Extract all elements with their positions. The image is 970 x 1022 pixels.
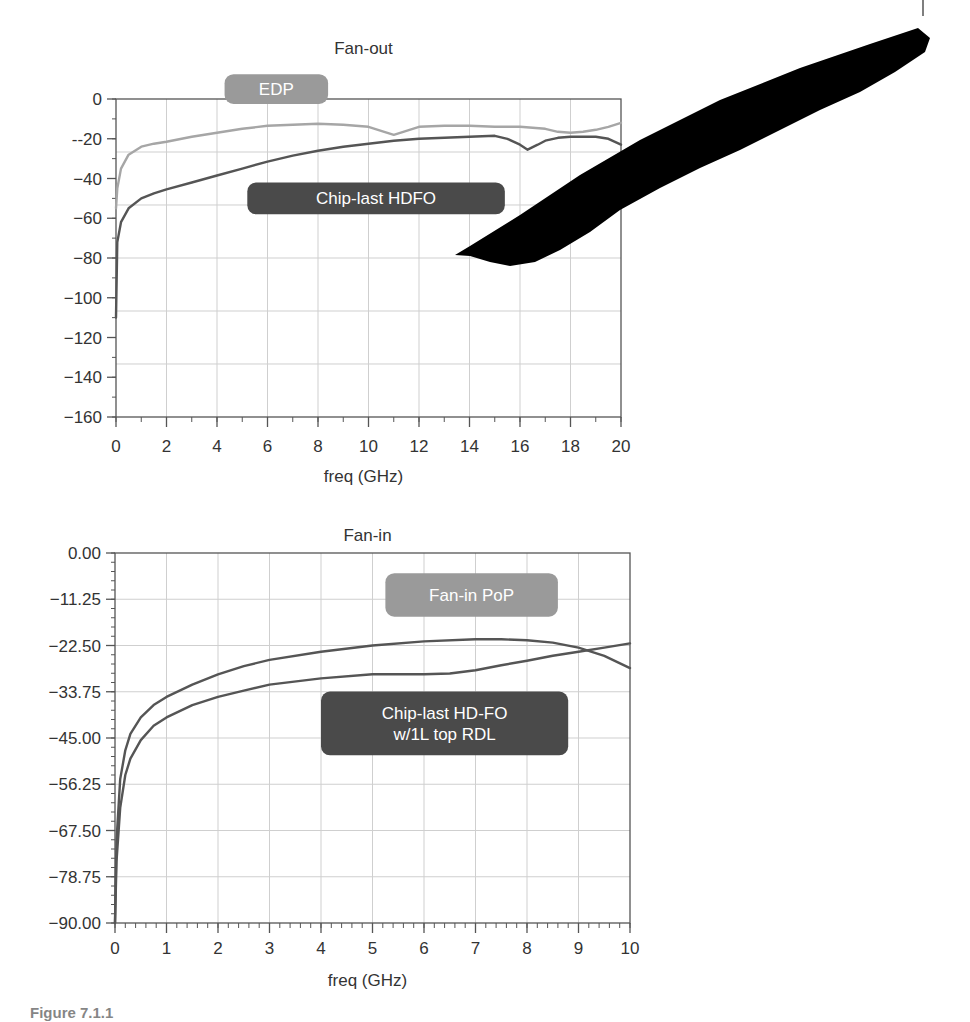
x-tick-label: 2 <box>162 437 171 456</box>
y-tick-label: −11.25 <box>50 590 101 609</box>
label-text: w/1L top RDL <box>392 725 495 744</box>
series-label-chip-last-hd-fo: Chip-last HD-FOw/1L top RDL <box>321 692 568 756</box>
x-axis-label: freq (GHz) <box>328 971 407 990</box>
x-tick-label: 8 <box>522 939 531 958</box>
y-tick-label: −56.25 <box>49 775 101 794</box>
black-marker-stroke <box>455 28 930 266</box>
y-tick-label: −120 <box>64 329 102 348</box>
redaction-mark <box>455 28 930 266</box>
x-tick-label: 16 <box>511 437 530 456</box>
y-tick-label: −78.75 <box>49 868 101 887</box>
x-tick-label: 10 <box>621 939 640 958</box>
x-tick-label: 8 <box>313 437 322 456</box>
series-label-chip-last-hdfo: Chip-last HDFO <box>247 182 505 214</box>
y-tick-label: −45.00 <box>49 729 101 748</box>
x-tick-label: 2 <box>213 939 222 958</box>
x-tick-label: 1 <box>162 939 171 958</box>
x-tick-label: 18 <box>561 437 580 456</box>
label-text: Fan-in PoP <box>429 586 514 605</box>
y-tick-label: --20 <box>72 130 102 149</box>
y-tick-label: −90.00 <box>49 914 101 933</box>
y-tick-label: −140 <box>64 368 102 387</box>
fan-out-chart: 0--20−40−60−80−100−120−140−1600246810121… <box>64 39 631 486</box>
x-axis-label: freq (GHz) <box>324 467 403 486</box>
x-tick-label: 20 <box>612 437 631 456</box>
y-tick-label: −60 <box>73 209 102 228</box>
x-tick-label: 3 <box>265 939 274 958</box>
series-label-edp: EDP <box>225 74 329 104</box>
x-tick-label: 12 <box>410 437 429 456</box>
label-text: Chip-last HDFO <box>316 189 436 208</box>
x-tick-label: 14 <box>460 437 479 456</box>
x-tick-label: 0 <box>111 437 120 456</box>
x-tick-label: 7 <box>471 939 480 958</box>
y-tick-label: −100 <box>64 289 102 308</box>
y-tick-label: 0.00 <box>68 544 101 563</box>
label-text: EDP <box>259 80 294 99</box>
figure-caption: Figure 7.1.1 <box>30 1004 113 1021</box>
x-tick-label: 10 <box>359 437 378 456</box>
x-tick-label: 4 <box>316 939 325 958</box>
chart-title: Fan-out <box>334 39 393 58</box>
label-text: Chip-last HD-FO <box>382 704 508 723</box>
y-tick-label: −33.75 <box>49 683 101 702</box>
y-tick-label: −80 <box>73 249 102 268</box>
series-label-fan-in-pop: Fan-in PoP <box>385 573 558 617</box>
x-tick-label: 0 <box>110 939 119 958</box>
x-tick-label: 5 <box>368 939 377 958</box>
x-tick-label: 9 <box>574 939 583 958</box>
y-tick-label: −40 <box>73 170 102 189</box>
chart-title: Fan-in <box>343 526 391 545</box>
fan-in-chart: 0.00−11.25−22.50−33.75−45.00−56.25−67.50… <box>49 526 640 990</box>
x-tick-label: 4 <box>212 437 221 456</box>
y-tick-label: −67.50 <box>49 822 101 841</box>
y-tick-label: 0 <box>93 90 102 109</box>
y-tick-label: −22.50 <box>49 637 101 656</box>
y-tick-label: −160 <box>64 408 102 427</box>
x-tick-label: 6 <box>263 437 272 456</box>
x-tick-label: 6 <box>419 939 428 958</box>
